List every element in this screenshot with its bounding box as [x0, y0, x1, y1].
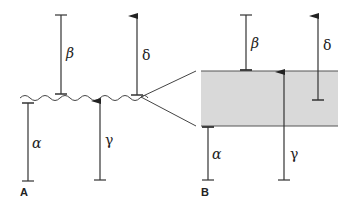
delta-label-a: δ	[142, 47, 150, 63]
magnification-lines	[141, 71, 196, 126]
wavy-membrane	[20, 96, 148, 101]
beta-label-a: β	[65, 45, 74, 61]
alpha-bar-b: α	[202, 127, 222, 180]
delta-label-b: δ	[323, 37, 331, 53]
beta-bar-a: β	[55, 15, 74, 94]
gamma-label-a: γ	[105, 132, 113, 148]
delta-arrow-a: δ	[131, 16, 150, 95]
panel-label-a: A	[20, 186, 28, 198]
beta-label-b: β	[250, 35, 259, 51]
gamma-label-b: γ	[290, 146, 298, 162]
gamma-arrow-a: γ	[94, 101, 113, 180]
panel-b: β δ α γ B	[201, 15, 338, 198]
membrane-diagram: β δ α γ A	[0, 0, 353, 209]
panel-label-b: B	[201, 186, 209, 198]
alpha-label-b: α	[212, 146, 222, 162]
beta-bar-b: β	[240, 15, 259, 70]
panel-a: β δ α γ A	[20, 15, 150, 198]
alpha-label-a: α	[32, 135, 42, 151]
alpha-bar-a: α	[22, 103, 42, 181]
